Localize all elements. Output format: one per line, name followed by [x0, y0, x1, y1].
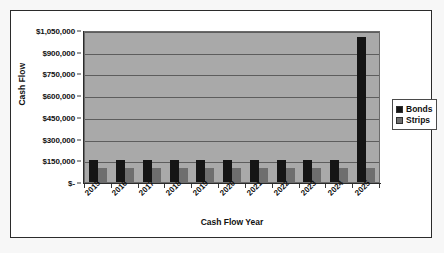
legend-label: Bonds: [406, 104, 432, 114]
bar-strips-2015: [98, 168, 107, 182]
chart-screenshot: Cash Flow $1,050,000$900,000$750,000$600…: [0, 0, 444, 253]
y-tick-mark: [77, 74, 81, 75]
bar-group: [299, 32, 326, 182]
x-tick-label: 2021: [245, 188, 272, 218]
bar-strips-2017: [152, 168, 161, 182]
bar-group: [85, 32, 112, 182]
bar-strips-2021: [259, 168, 268, 182]
x-tick-label: 2017: [138, 188, 165, 218]
bars-layer: [85, 32, 379, 182]
bar-group: [219, 32, 246, 182]
legend-label: Strips: [406, 115, 430, 125]
y-tick-mark: [77, 52, 81, 53]
legend-item-strips[interactable]: Strips: [396, 115, 432, 125]
bar-strips-2016: [125, 168, 134, 182]
x-tick-label: 2020: [219, 188, 246, 218]
y-tick-label: $1,050,000: [36, 27, 75, 36]
x-tick-label: 2018: [165, 188, 192, 218]
y-axis-tick-labels: $1,050,000$900,000$750,000$600,000$450,0…: [11, 11, 81, 203]
y-tick-mark: [77, 117, 81, 118]
bar-bonds-2025: [357, 37, 366, 182]
x-tick-label: 2019: [192, 188, 219, 218]
bar-group: [272, 32, 299, 182]
y-tick-mark: [77, 96, 81, 97]
bar-strips-2018: [179, 168, 188, 182]
y-tick-label: $300,000: [42, 135, 75, 144]
y-tick-label: $-: [68, 179, 75, 188]
y-tick-mark: [77, 139, 81, 140]
x-tick-label: 2015: [84, 188, 111, 218]
y-tick-mark: [77, 183, 81, 184]
y-tick-label: $600,000: [42, 92, 75, 101]
x-tick-label: 2016: [111, 188, 138, 218]
bar-strips-2019: [205, 168, 214, 182]
y-tick-label: $750,000: [42, 70, 75, 79]
x-tick-label: 2025: [353, 188, 380, 218]
legend-item-bonds[interactable]: Bonds: [396, 104, 432, 114]
x-tick-label: 2022: [272, 188, 299, 218]
legend-swatch-icon: [396, 117, 403, 124]
x-axis-tick-labels: 2015201620172018201920202021202220232024…: [84, 188, 380, 218]
bar-group: [245, 32, 272, 182]
bar-strips-2020: [232, 168, 241, 182]
y-tick-label: $450,000: [42, 113, 75, 122]
x-tick-label: 2023: [299, 188, 326, 218]
bar-group: [112, 32, 139, 182]
bar-group: [352, 32, 379, 182]
bar-group: [326, 32, 353, 182]
y-tick-label: $150,000: [42, 157, 75, 166]
y-tick-mark: [77, 31, 81, 32]
legend-swatch-icon: [396, 106, 403, 113]
x-axis-title: Cash Flow Year: [84, 217, 380, 227]
plot-area: [84, 31, 380, 183]
chart-legend: BondsStrips: [392, 99, 437, 130]
bar-group: [192, 32, 219, 182]
bar-group: [138, 32, 165, 182]
y-tick-label: $900,000: [42, 48, 75, 57]
x-tick-label: 2024: [326, 188, 353, 218]
chart-frame: Cash Flow $1,050,000$900,000$750,000$600…: [10, 10, 432, 238]
bar-group: [165, 32, 192, 182]
y-tick-mark: [77, 161, 81, 162]
